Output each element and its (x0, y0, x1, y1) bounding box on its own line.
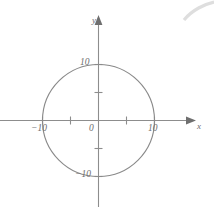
page-corner-artifact (184, 2, 214, 20)
x-axis-arrowhead (186, 117, 196, 125)
y-axis-label: y (92, 16, 96, 25)
plot-svg (0, 0, 214, 207)
x-tick-label-neg10: −10 (31, 124, 47, 134)
figure-canvas: y x 0 −10 10 10 −10 (0, 0, 214, 207)
x-axis-label: x (197, 122, 201, 131)
y-tick-label-pos10: 10 (80, 58, 90, 68)
y-tick-label-neg10: −10 (75, 170, 91, 180)
x-tick-label-pos10: 10 (148, 124, 158, 134)
origin-label: 0 (89, 124, 94, 134)
